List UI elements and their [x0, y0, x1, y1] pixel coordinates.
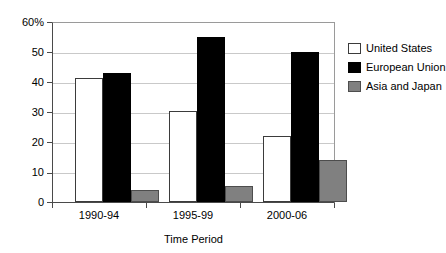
- bar-group: [169, 23, 251, 202]
- bar-european-union: [197, 37, 225, 202]
- legend-swatch-icon: [348, 81, 361, 92]
- y-tick-label: 20: [32, 137, 44, 148]
- bar-united-states: [263, 136, 291, 202]
- legend-label: United States: [366, 42, 432, 54]
- x-axis-labels: 1990-94 1995-99 2000-06: [52, 209, 335, 225]
- plot-area: [52, 22, 335, 203]
- x-tick-mark: [146, 203, 147, 208]
- legend-label: Asia and Japan: [366, 80, 442, 92]
- bar-asia-and-japan: [225, 186, 253, 202]
- bar-united-states: [169, 111, 197, 202]
- y-tick-label: 60%: [22, 17, 44, 28]
- x-tick-mark: [334, 203, 335, 208]
- legend-swatch-icon: [348, 62, 361, 73]
- bars-layer: [53, 23, 334, 202]
- x-tick-label: 2000-06: [267, 209, 307, 222]
- bar-european-union: [103, 73, 131, 202]
- legend-swatch-icon: [348, 43, 361, 54]
- y-tick-label: 30: [32, 107, 44, 118]
- legend-label: European Union: [366, 61, 446, 73]
- legend-item-european-union: European Union: [348, 59, 445, 75]
- bar-asia-and-japan: [131, 190, 159, 202]
- x-tick-mark: [240, 203, 241, 208]
- y-tick-label: 0: [38, 197, 44, 208]
- x-tick-label: 1990-94: [79, 209, 119, 222]
- legend: United States European Union Asia and Ja…: [348, 40, 445, 97]
- bar-united-states: [75, 78, 103, 202]
- y-tick-label: 40: [32, 77, 44, 88]
- bar-group: [75, 23, 157, 202]
- bar-asia-and-japan: [319, 160, 347, 202]
- x-axis-title: Time Period: [52, 233, 335, 246]
- y-tick-label: 10: [32, 167, 44, 178]
- y-tick-label: 50: [32, 47, 44, 58]
- bar-group: [263, 23, 345, 202]
- x-tick-label: 1995-99: [173, 209, 213, 222]
- x-tick-mark: [52, 203, 53, 208]
- legend-item-united-states: United States: [348, 40, 445, 56]
- bar-european-union: [291, 52, 319, 202]
- legend-item-asia-and-japan: Asia and Japan: [348, 78, 445, 94]
- y-axis-labels: 60% 50 40 30 20 10 0: [0, 0, 48, 253]
